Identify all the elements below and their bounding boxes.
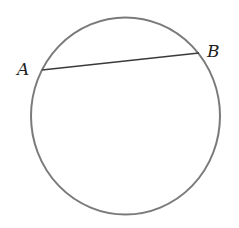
point-label-b: B [206, 41, 220, 61]
circle-chord-diagram: A B [0, 0, 239, 228]
chord-ab [42, 53, 199, 70]
circle [31, 18, 220, 215]
point-label-a: A [15, 59, 29, 79]
